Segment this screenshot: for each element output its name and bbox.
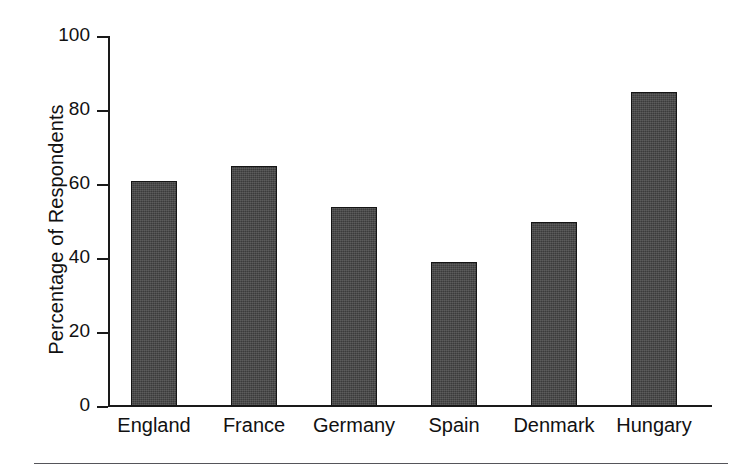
bar-spain [431, 262, 477, 406]
y-tick-60: 60 [97, 184, 108, 186]
y-tick-100: 100 [97, 36, 108, 38]
y-tick-label-80: 80 [69, 98, 90, 120]
page-divider-rule [34, 463, 728, 464]
bar-hungary [631, 92, 677, 406]
y-tick-0: 0 [97, 406, 108, 408]
y-tick-80: 80 [97, 110, 108, 112]
y-tick-40: 40 [97, 258, 108, 260]
bar-england [131, 181, 177, 406]
y-tick-20: 20 [97, 332, 108, 334]
y-axis-title: Percentage of Respondents [45, 60, 68, 400]
plot-area: 100 80 60 40 20 0 [108, 37, 712, 406]
y-tick-label-0: 0 [79, 394, 90, 416]
bar-chart-figure: Percentage of Respondents 100 80 60 40 2… [0, 0, 744, 470]
y-tick-label-60: 60 [69, 172, 90, 194]
y-tick-label-100: 100 [58, 24, 90, 46]
bar-germany [331, 207, 377, 406]
y-tick-label-20: 20 [69, 320, 90, 342]
x-tick-label-hungary: Hungary [579, 414, 729, 437]
bar-denmark [531, 222, 577, 407]
y-tick-label-40: 40 [69, 246, 90, 268]
bar-france [231, 166, 277, 406]
